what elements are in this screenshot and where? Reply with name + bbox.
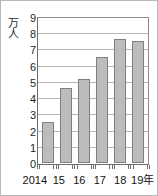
- x-tick-mark: [58, 165, 59, 169]
- x-tick-mark: [77, 165, 78, 169]
- x-tick-mark: [147, 165, 148, 169]
- x-tick-label: 18: [110, 174, 130, 186]
- x-axis-tick-marks: [37, 165, 149, 169]
- x-tick-mark: [91, 165, 92, 169]
- unit-label-char-2: 人: [6, 29, 20, 40]
- y-tick-label: 4: [21, 94, 36, 105]
- x-tick-mark: [114, 165, 115, 169]
- bar: [60, 88, 72, 163]
- bar-slot: [75, 19, 93, 163]
- x-tick-mark: [53, 165, 54, 169]
- y-tick-label: 1: [21, 142, 36, 153]
- x-tick-label: 2014: [21, 174, 49, 186]
- bar-chart-figure: 万 人 0123456789 20141516171819年: [0, 0, 158, 196]
- y-tick-label: 8: [21, 29, 36, 40]
- bar: [114, 39, 126, 163]
- plot-area: [37, 17, 149, 165]
- x-tick-mark: [109, 165, 110, 169]
- y-axis-unit-label: 万 人: [6, 18, 20, 40]
- x-tick-label: 17: [90, 174, 110, 186]
- x-tick-mark: [37, 165, 38, 169]
- x-tick-mark: [39, 165, 40, 169]
- x-tick-label: 16: [69, 174, 89, 186]
- bar: [96, 57, 108, 163]
- bar: [42, 122, 54, 163]
- bar-slot: [39, 19, 57, 163]
- y-tick-label: 3: [21, 110, 36, 121]
- bar-slot: [93, 19, 111, 163]
- x-axis: 20141516171819年: [21, 172, 155, 188]
- x-tick-label: 19年: [130, 174, 155, 186]
- y-tick-label: 2: [21, 126, 36, 137]
- x-tick-mark: [56, 165, 57, 169]
- bars-layer: [39, 19, 147, 163]
- y-tick-label: 6: [21, 61, 36, 72]
- x-tick-label: 15: [49, 174, 69, 186]
- x-tick-mark: [74, 165, 75, 169]
- y-tick-label: 0: [21, 159, 36, 170]
- y-tick-label: 5: [21, 77, 36, 88]
- x-tick-mark: [130, 165, 131, 169]
- bar-slot: [57, 19, 75, 163]
- x-tick-mark: [95, 165, 96, 169]
- bar-slot: [111, 19, 129, 163]
- bar-slot: [129, 19, 147, 163]
- bar: [78, 79, 90, 163]
- bar: [132, 41, 144, 163]
- x-tick-mark: [128, 165, 129, 169]
- y-tick-label: 7: [21, 45, 36, 56]
- x-tick-mark: [93, 165, 94, 169]
- y-axis: 0123456789: [21, 17, 36, 165]
- x-tick-mark: [133, 165, 134, 169]
- x-tick-mark: [149, 165, 150, 169]
- x-tick-mark: [112, 165, 113, 169]
- y-tick-label: 9: [21, 13, 36, 24]
- x-tick-mark: [72, 165, 73, 169]
